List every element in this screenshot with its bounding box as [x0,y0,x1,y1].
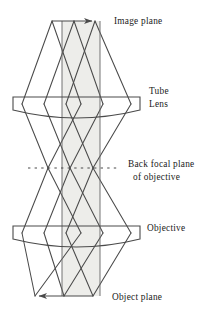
label-of-objective: of objective [133,172,180,182]
label-tube: Tube [149,86,169,96]
label-lens: Lens [149,99,168,109]
optical-diagram: Image plane Tube Lens Back focal plane o… [0,0,206,316]
label-objective: Objective [147,223,185,233]
label-image-plane: Image plane [114,16,162,26]
label-object-plane: Object plane [112,292,162,302]
label-back-focal-plane: Back focal plane [128,159,194,169]
optical-ray-canvas: Image plane Tube Lens Back focal plane o… [0,0,206,316]
